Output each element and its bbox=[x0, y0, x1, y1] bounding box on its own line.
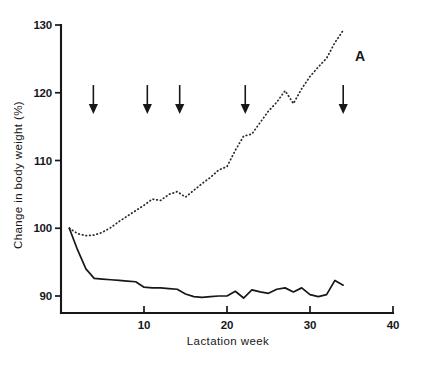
x-axis-title: Lactation week bbox=[187, 335, 269, 347]
treatment-arrow bbox=[175, 85, 184, 114]
axes: 90100110120130 10203040 bbox=[33, 19, 399, 331]
figure-panel-a: 90100110120130 10203040 Change in body w… bbox=[0, 0, 425, 366]
treatment-arrow bbox=[89, 85, 98, 114]
treatment-arrow-markers bbox=[89, 85, 348, 114]
y-tick-label: 110 bbox=[34, 155, 52, 167]
arrow-head bbox=[175, 104, 184, 114]
x-tick-label: 10 bbox=[138, 319, 150, 331]
chart-canvas: 90100110120130 10203040 Change in body w… bbox=[0, 0, 425, 366]
y-tick-label: 120 bbox=[33, 87, 52, 99]
arrow-head bbox=[89, 104, 98, 114]
y-tick-label: 100 bbox=[33, 222, 52, 234]
data-series bbox=[69, 30, 343, 298]
y-tick-label: 130 bbox=[33, 19, 52, 31]
panel-label: A bbox=[355, 48, 365, 64]
arrow-head bbox=[339, 104, 348, 114]
series-line-solid bbox=[69, 228, 343, 298]
y-axis-title: Change in body weight (%) bbox=[12, 101, 24, 249]
y-axis-tick-labels: 90100110120130 bbox=[33, 19, 52, 302]
treatment-arrow bbox=[339, 85, 348, 114]
x-tick-label: 40 bbox=[387, 319, 399, 331]
arrow-head bbox=[143, 104, 152, 114]
x-axis-tick-labels: 10203040 bbox=[138, 319, 399, 331]
series-line-dotted bbox=[69, 30, 343, 235]
arrow-head bbox=[241, 104, 250, 114]
x-tick-label: 20 bbox=[221, 319, 233, 331]
treatment-arrow bbox=[241, 85, 250, 114]
x-tick-label: 30 bbox=[304, 319, 316, 331]
y-tick-label: 90 bbox=[40, 290, 52, 302]
treatment-arrow bbox=[143, 85, 152, 114]
